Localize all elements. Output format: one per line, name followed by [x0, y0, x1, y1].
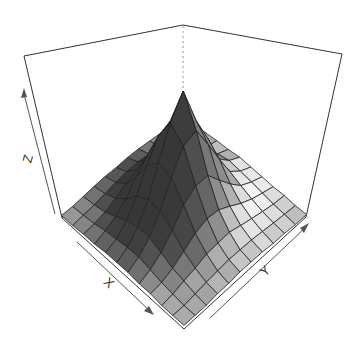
box-edge: [24, 56, 62, 218]
box-edge: [183, 25, 342, 54]
box-edge: [306, 54, 342, 217]
z-axis-label: Z: [19, 153, 36, 165]
z-axis-arrow: [24, 94, 55, 214]
y-axis-label: Y: [257, 262, 274, 279]
box-edge: [24, 25, 183, 56]
x-axis-label: X: [101, 274, 118, 291]
z-axis-arrowhead: [21, 88, 27, 98]
surface-plot: Z X Y: [0, 0, 363, 353]
surface-mesh: [61, 91, 306, 325]
